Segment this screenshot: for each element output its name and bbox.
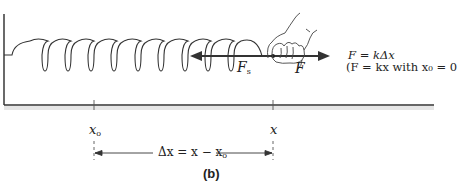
x-label: x: [270, 122, 277, 137]
f-main: F: [295, 60, 305, 76]
x0-subscript: o: [96, 129, 101, 138]
delta-x-label: Δx = x − xo: [158, 145, 227, 160]
floor-shadow: [4, 106, 434, 110]
panel-label: (b): [203, 166, 220, 181]
spring-force-arrow: [190, 51, 272, 61]
delta-subscript: o: [222, 151, 227, 160]
equation-line-2: (F = kx with x₀ = 0: [346, 60, 457, 74]
applied-force-label: F: [295, 60, 305, 76]
spring-force-label: Fs: [237, 59, 251, 76]
hand-icon: [268, 13, 318, 70]
x0-label: xo: [89, 122, 101, 138]
delta-main: Δx = x − x: [158, 145, 222, 159]
fs-subscript: s: [247, 67, 251, 76]
spring-attachment: [4, 41, 30, 55]
fs-main: F: [237, 59, 247, 75]
